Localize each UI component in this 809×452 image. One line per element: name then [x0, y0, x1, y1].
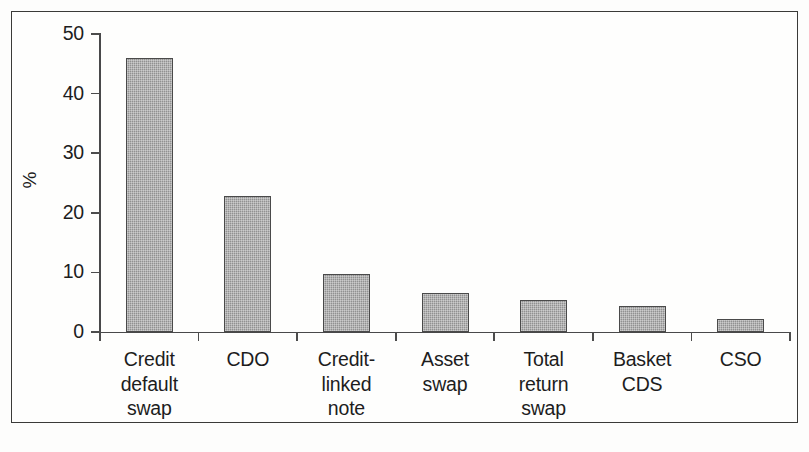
bar — [422, 293, 469, 332]
x-tick-mark — [395, 332, 397, 341]
chart-figure: % 01020304050 Credit default swapCDOCred… — [0, 0, 809, 452]
bar — [224, 196, 271, 332]
bar — [323, 274, 370, 332]
y-tick-label: 40 — [38, 84, 84, 104]
y-tick-mark — [91, 33, 100, 35]
x-category-label: CSO — [691, 347, 790, 372]
bar — [126, 58, 173, 332]
y-tick-label: 50 — [38, 24, 84, 44]
x-tick-mark — [99, 332, 101, 341]
bar — [717, 319, 764, 332]
x-category-label: CDO — [199, 347, 298, 372]
y-tick-mark — [91, 93, 100, 95]
x-tick-mark — [296, 332, 298, 341]
x-tick-mark — [493, 332, 495, 341]
y-tick-mark — [91, 212, 100, 214]
x-category-label: Basket CDS — [593, 347, 692, 396]
x-tick-mark — [789, 332, 791, 341]
x-tick-mark — [592, 332, 594, 341]
bar — [520, 300, 567, 332]
x-tick-mark — [198, 332, 200, 341]
y-tick-label: 0 — [38, 322, 84, 342]
x-tick-mark — [691, 332, 693, 341]
plot-area — [100, 34, 790, 332]
y-tick-label: 10 — [38, 262, 84, 282]
y-tick-mark — [91, 152, 100, 154]
y-tick-mark — [91, 272, 100, 274]
x-category-label: Credit- linked note — [297, 347, 396, 421]
x-category-label: Total return swap — [494, 347, 593, 421]
y-tick-label: 20 — [38, 203, 84, 223]
y-tick-label: 30 — [38, 143, 84, 163]
bar — [619, 306, 666, 332]
x-category-label: Credit default swap — [100, 347, 199, 421]
x-category-label: Asset swap — [396, 347, 495, 396]
y-tick-label-group: 01020304050 — [38, 0, 84, 452]
